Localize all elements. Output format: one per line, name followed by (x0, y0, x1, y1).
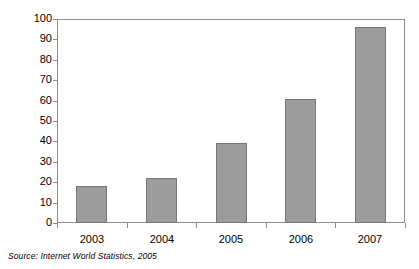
x-tick-label: 2005 (196, 233, 266, 245)
bar-series (57, 19, 405, 223)
x-tick-mark (127, 223, 128, 228)
x-tick-label: 2003 (57, 233, 127, 245)
bar (355, 27, 386, 223)
bar (216, 143, 247, 223)
bar (285, 99, 316, 223)
x-tick-label: 2006 (266, 233, 336, 245)
bar (146, 178, 177, 223)
x-tick-mark (57, 223, 58, 228)
x-tick-mark (196, 223, 197, 228)
x-tick-mark (335, 223, 336, 228)
chart-figure: 0102030405060708090100 20032004200520062… (0, 0, 419, 269)
x-tick-label: 2004 (127, 233, 197, 245)
bar (76, 186, 107, 223)
x-tick-mark (405, 223, 406, 228)
source-note: Source: Internet World Statistics, 2005 (8, 251, 157, 261)
x-tick-label: 2007 (335, 233, 405, 245)
x-tick-mark (266, 223, 267, 228)
